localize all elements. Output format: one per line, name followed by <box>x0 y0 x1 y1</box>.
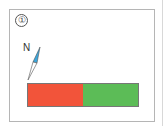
magnet-right-pole <box>83 84 138 106</box>
magnet-left-pole <box>28 84 83 106</box>
compass-needle-icon <box>0 0 165 126</box>
bar-magnet <box>27 83 139 107</box>
